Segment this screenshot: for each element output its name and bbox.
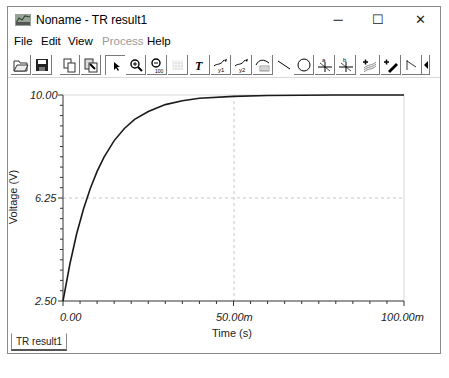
window-title: Noname - TR result1 [36, 13, 147, 27]
line-icon [276, 57, 292, 73]
curve-label-icon [255, 57, 271, 73]
step-line-icon [404, 57, 420, 73]
curve-label-button[interactable] [253, 55, 273, 75]
step-line-button[interactable] [402, 55, 422, 75]
zoom-in-button[interactable] [126, 55, 146, 75]
minimize-button[interactable]: ─ [318, 7, 358, 33]
line-button[interactable] [274, 55, 294, 75]
scroll-left-icon [423, 57, 429, 73]
menu-process[interactable]: Process [102, 35, 144, 47]
save-icon [34, 57, 50, 73]
title-bar[interactable]: Noname - TR result1 ─ ☐ ✕ [8, 7, 440, 33]
svg-text:T: T [195, 59, 203, 73]
marker-b-button[interactable]: b [336, 55, 356, 75]
text-icon: T [192, 57, 208, 73]
y-tick-min: 2.50 [35, 295, 56, 307]
paste-special-icon [83, 57, 99, 73]
add-pen-button[interactable] [381, 55, 401, 75]
menu-help[interactable]: Help [147, 35, 171, 47]
open-folder-icon [13, 57, 29, 73]
grid-button[interactable] [168, 55, 188, 75]
app-window: Noname - TR result1 ─ ☐ ✕ File Edit View… [7, 6, 441, 354]
zoom-100-button[interactable]: 100 [147, 55, 167, 75]
result-tab-bar: TR result1 [8, 335, 440, 353]
add-curve-button[interactable] [360, 55, 380, 75]
menu-file[interactable]: File [14, 35, 33, 47]
copy-button[interactable] [60, 55, 80, 75]
toolbar: 100 T y1 y2 a b [8, 53, 440, 78]
grid-lines [63, 95, 404, 301]
scroll-left-button[interactable] [422, 55, 430, 75]
cursor-a-button[interactable]: y1 [211, 55, 231, 75]
grid-icon [170, 57, 186, 73]
paste-special-button[interactable] [81, 55, 101, 75]
tab-tr-result1[interactable]: TR result1 [11, 333, 67, 351]
circle-button[interactable] [294, 55, 314, 75]
add-pen-icon [383, 57, 399, 73]
svg-text:100: 100 [155, 68, 164, 74]
figure-caption-cutoff [0, 369, 449, 378]
marker-b-icon: b [338, 57, 354, 73]
copy-icon [62, 57, 78, 73]
zoom-100-icon: 100 [149, 57, 165, 73]
add-curve-icon [362, 57, 378, 73]
cursor-a-icon: y1 [213, 57, 229, 73]
menu-view[interactable]: View [68, 35, 93, 47]
y-tick-max: 10.00 [30, 89, 58, 101]
voltage-time-plot[interactable] [8, 79, 442, 337]
text-button[interactable]: T [190, 55, 210, 75]
x-tick-min: 0.00 [60, 311, 81, 323]
menu-edit[interactable]: Edit [41, 35, 61, 47]
x-axis [63, 301, 404, 306]
cursor-b-button[interactable]: y2 [232, 55, 252, 75]
svg-text:y1: y1 [218, 67, 225, 73]
zoom-in-icon [128, 57, 144, 73]
open-button[interactable] [11, 55, 31, 75]
x-tick-max: 100.00m [381, 311, 424, 323]
x-tick-mid: 50.00m [216, 311, 253, 323]
save-button[interactable] [32, 55, 52, 75]
maximize-button[interactable]: ☐ [358, 7, 398, 33]
select-arrow-icon [108, 58, 124, 74]
y-tick-mid: 6.25 [35, 192, 56, 204]
marker-a-button[interactable]: a [315, 55, 335, 75]
chart-area[interactable]: 10.00 6.25 2.50 0.00 50.00m 100.00m Time… [8, 79, 440, 337]
select-button[interactable] [105, 55, 125, 75]
marker-a-icon: a [317, 57, 333, 73]
menu-bar: File Edit View Process Help [8, 33, 440, 51]
cursor-b-icon: y2 [234, 57, 250, 73]
app-logo-icon [15, 14, 31, 26]
circle-icon [296, 57, 312, 73]
svg-text:y2: y2 [239, 67, 246, 73]
y-axis-title: Voltage (V) [7, 157, 19, 237]
close-button[interactable]: ✕ [400, 7, 440, 33]
y-axis [58, 95, 63, 301]
